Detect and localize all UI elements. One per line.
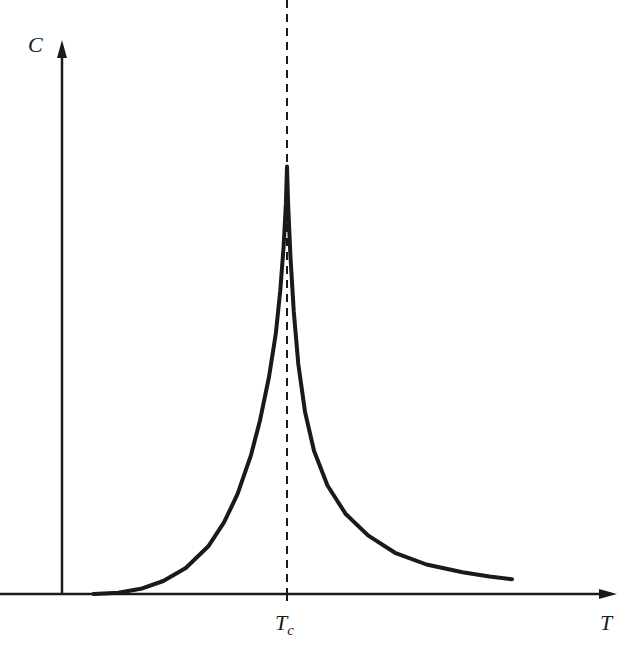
y-axis-label: C <box>28 32 43 57</box>
x-axis-arrow-icon <box>599 589 617 599</box>
critical-temperature-label: Tc <box>275 610 294 638</box>
x-axis-label: T <box>600 610 614 635</box>
tc-label-subscript: c <box>287 622 294 638</box>
heat-capacity-curve <box>94 167 513 595</box>
y-axis-arrow-icon <box>57 40 67 58</box>
heat-capacity-figure: C T Tc <box>0 0 641 652</box>
